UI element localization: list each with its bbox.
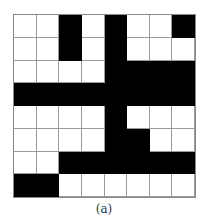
grid-cell bbox=[172, 174, 195, 197]
grid-cell bbox=[172, 38, 195, 61]
grid-cell bbox=[105, 61, 128, 84]
grid-cell bbox=[37, 174, 60, 197]
grid-cell bbox=[59, 152, 82, 175]
grid-cell bbox=[105, 129, 128, 152]
grid-cell bbox=[150, 38, 173, 61]
grid-cell bbox=[82, 61, 105, 84]
grid-cell bbox=[14, 61, 37, 84]
grid-cell bbox=[105, 106, 128, 129]
grid-cell bbox=[59, 129, 82, 152]
grid-cell bbox=[150, 106, 173, 129]
grid-cell bbox=[82, 174, 105, 197]
grid-cell bbox=[14, 129, 37, 152]
grid-cell bbox=[150, 174, 173, 197]
grid-cell bbox=[59, 106, 82, 129]
grid-cell bbox=[105, 38, 128, 61]
grid-cell bbox=[105, 15, 128, 38]
grid-cell bbox=[172, 129, 195, 152]
grid-cell bbox=[150, 61, 173, 84]
grid-cell bbox=[150, 83, 173, 106]
grid-cell bbox=[82, 38, 105, 61]
grid-cell bbox=[127, 174, 150, 197]
grid-cell bbox=[127, 61, 150, 84]
grid-cell bbox=[172, 61, 195, 84]
grid-cell bbox=[127, 83, 150, 106]
grid-cell bbox=[59, 174, 82, 197]
grid-cell bbox=[14, 38, 37, 61]
grid-cell bbox=[14, 15, 37, 38]
grid-cell bbox=[59, 83, 82, 106]
grid-cell bbox=[150, 15, 173, 38]
grid-cell bbox=[14, 152, 37, 175]
grid-cell bbox=[37, 38, 60, 61]
grid-cell bbox=[59, 15, 82, 38]
grid-cell bbox=[127, 106, 150, 129]
grid-cell bbox=[82, 152, 105, 175]
grid-cell bbox=[172, 152, 195, 175]
grid-cell bbox=[127, 38, 150, 61]
grid-cell bbox=[14, 106, 37, 129]
grid-cell bbox=[105, 83, 128, 106]
grid-cell bbox=[14, 174, 37, 197]
binary-pixel-grid bbox=[13, 14, 196, 198]
grid-cell bbox=[172, 83, 195, 106]
grid-cell bbox=[127, 129, 150, 152]
figure-caption: (a) bbox=[0, 202, 208, 216]
grid-cell bbox=[37, 106, 60, 129]
grid-cell bbox=[82, 15, 105, 38]
grid-cell bbox=[59, 61, 82, 84]
grid-cell bbox=[150, 152, 173, 175]
grid-cell bbox=[150, 129, 173, 152]
grid-cell bbox=[37, 83, 60, 106]
grid-cell bbox=[59, 38, 82, 61]
grid-cell bbox=[37, 152, 60, 175]
grid-cell bbox=[82, 83, 105, 106]
grid-cell bbox=[82, 129, 105, 152]
grid-cell bbox=[82, 106, 105, 129]
grid-cell bbox=[105, 152, 128, 175]
grid-cell bbox=[14, 83, 37, 106]
grid-cell bbox=[37, 15, 60, 38]
grid-cell bbox=[172, 106, 195, 129]
grid-cell bbox=[127, 15, 150, 38]
grid-cell bbox=[37, 129, 60, 152]
grid-cell bbox=[172, 15, 195, 38]
grid-cell bbox=[37, 61, 60, 84]
grid-cell bbox=[105, 174, 128, 197]
grid-cell bbox=[127, 152, 150, 175]
